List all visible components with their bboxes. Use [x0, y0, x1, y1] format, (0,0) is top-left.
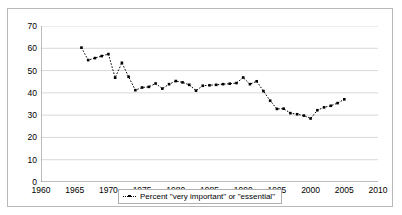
x-axis-tick-label: 2010 — [357, 186, 399, 195]
y-axis-tick-label: 50 — [0, 67, 37, 76]
legend-marker-icon — [123, 193, 136, 200]
data-series-line — [41, 26, 378, 182]
y-axis-tick-label: 30 — [0, 111, 37, 120]
plot-area: 010203040506070 196019651970197519801985… — [41, 26, 378, 182]
y-axis-tick-label: 60 — [0, 44, 37, 53]
legend-entry-label: Percent "very important" or "essential" — [140, 192, 275, 201]
chart-legend: Percent "very important" or "essential" — [118, 189, 282, 204]
y-axis-tick-label: 40 — [0, 89, 37, 98]
y-axis-tick-label: 20 — [0, 133, 37, 142]
y-axis-tick-label: 70 — [0, 22, 37, 31]
y-axis-tick-label: 10 — [0, 156, 37, 165]
chart-figure: 010203040506070 196019651970197519801985… — [7, 8, 393, 207]
